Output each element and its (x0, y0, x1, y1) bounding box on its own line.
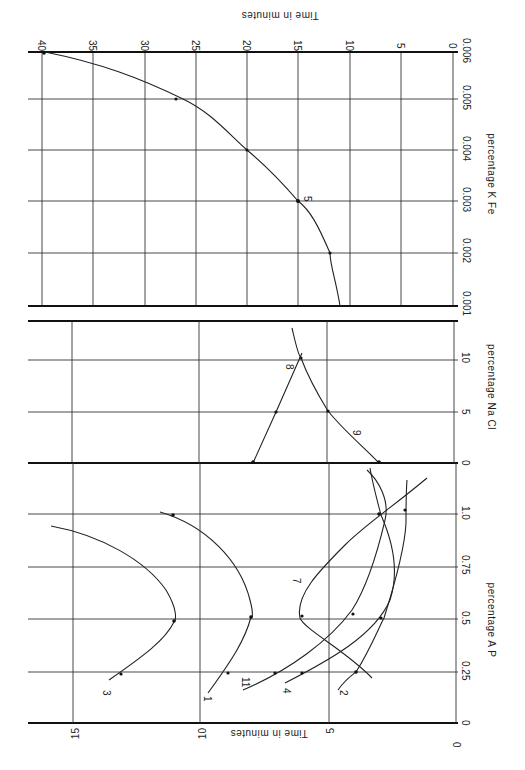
svg-text:0.004: 0.004 (461, 136, 472, 161)
curve-3 (51, 526, 176, 680)
curve-label-9: 9 (351, 430, 362, 436)
curve-5 (45, 52, 340, 306)
curve-7 (299, 478, 427, 678)
svg-text:0.003: 0.003 (461, 187, 472, 212)
kfe-x-axis-title: percentage K Fe (486, 133, 497, 214)
svg-text:0.005: 0.005 (461, 85, 472, 110)
panel-ap: 3 1 11 4 7 2 15 10 5 0 Tim (28, 463, 497, 748)
curve-label-2: 2 (338, 690, 349, 696)
svg-text:5: 5 (325, 728, 336, 734)
svg-text:0.002: 0.002 (461, 238, 472, 263)
curve-9 (292, 328, 379, 463)
curve-1 (160, 512, 252, 693)
ap-time-axis-title: Time in minutes (230, 728, 308, 739)
svg-text:5: 5 (395, 43, 406, 49)
ap-x-ticks: 1.0 0.75 0.5 0.25 0 (460, 506, 471, 726)
svg-text:30: 30 (139, 40, 150, 52)
svg-text:15: 15 (70, 728, 81, 740)
svg-text:5: 5 (460, 409, 471, 415)
curve-2 (338, 480, 407, 690)
nacl-x-ticks: 10 5 0 (460, 352, 471, 466)
svg-text:10: 10 (344, 40, 355, 52)
svg-text:20: 20 (241, 40, 252, 52)
curve-label-5: 5 (302, 196, 313, 202)
svg-text:0: 0 (452, 742, 463, 748)
svg-text:10: 10 (197, 728, 208, 740)
svg-text:1.0: 1.0 (460, 506, 471, 520)
curve-label-1: 1 (202, 696, 213, 702)
svg-text:0: 0 (447, 43, 458, 49)
rotated-chart: 5 40 35 30 25 20 15 10 5 0 Time in minut… (0, 0, 525, 770)
ap-x-axis-title: percentage A P (486, 583, 497, 658)
kfe-time-axis-title: Time in minutes (241, 10, 319, 21)
panel-nacl: 8 9 10 5 0 percentage Na Cl (28, 321, 497, 466)
svg-text:10: 10 (460, 352, 471, 364)
svg-text:0.75: 0.75 (460, 555, 471, 575)
kfe-x-ticks: 0.006 0.005 0.004 0.003 0.002 0.001 (461, 38, 472, 316)
kfe-time-ticks: 40 35 30 25 20 15 10 5 0 (36, 40, 458, 52)
svg-text:0.001: 0.001 (461, 291, 472, 316)
curve-label-11: 11 (240, 677, 251, 688)
curve-label-7: 7 (291, 578, 302, 584)
svg-text:0: 0 (460, 460, 471, 466)
curve-label-3: 3 (101, 690, 112, 696)
svg-text:0: 0 (460, 720, 471, 726)
curve-label-8: 8 (284, 364, 295, 370)
svg-text:0.25: 0.25 (460, 661, 471, 681)
svg-text:35: 35 (87, 40, 98, 52)
svg-text:25: 25 (190, 40, 201, 52)
svg-text:15: 15 (292, 40, 303, 52)
svg-text:0.006: 0.006 (461, 38, 472, 63)
svg-text:0.5: 0.5 (460, 611, 471, 625)
curve-label-4: 4 (281, 688, 292, 694)
svg-text:40: 40 (36, 40, 47, 52)
panel-kfe: 5 40 35 30 25 20 15 10 5 0 Time in minut… (28, 10, 497, 316)
nacl-x-axis-title: percentage Na Cl (486, 344, 497, 430)
